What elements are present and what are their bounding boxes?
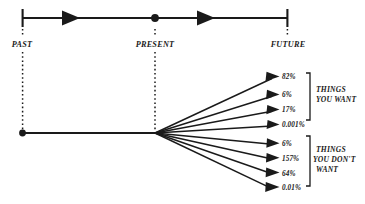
branch-want-2-arrowhead-icon <box>266 90 280 100</box>
branch-dont-want-3-percent: 64% <box>282 170 295 178</box>
diagram-root: PAST PRESENT FUTURE 82% 6% 17% 0.001% <box>0 0 365 204</box>
arrow-past-to-present-icon <box>62 11 80 26</box>
branch-want-4-percent: 0.001% <box>282 121 305 129</box>
branch-group-things-you-dont-want: 6% 157% 64% 0.01% THINGS YOU DON'T WANT <box>155 133 356 192</box>
branch-want-1-arrowhead-icon <box>266 72 280 81</box>
branch-dont-want-2-line <box>155 133 272 159</box>
branch-want-2-percent: 6% <box>282 91 292 99</box>
branch-dont-want-4-arrowhead-icon <box>265 182 279 192</box>
branch-want-1-percent: 82% <box>282 73 295 81</box>
group-label-things-you-want-line-1: THINGS <box>316 85 346 94</box>
timeline-label-present: PRESENT <box>136 40 175 49</box>
bracket-things-you-dont-want <box>306 136 310 186</box>
branch-dont-want-1-arrowhead-icon <box>266 138 279 148</box>
branch-dont-want-3-arrowhead-icon <box>266 168 280 178</box>
bracket-things-you-want <box>306 73 310 120</box>
branch-want-1-line <box>155 79 272 134</box>
past-present-future-diagram: PAST PRESENT FUTURE 82% 6% 17% 0.001% <box>0 0 365 204</box>
branch-want-3-arrowhead-icon <box>266 105 279 114</box>
group-label-things-you-dont-want-line-2: YOU DON'T <box>313 155 356 164</box>
arrow-present-to-future-icon <box>197 11 215 26</box>
trunk-origin-dot <box>19 130 26 137</box>
timeline-axis-group <box>22 9 288 27</box>
branch-group-things-you-want: 82% 6% 17% 0.001% THINGS YOU WANT <box>155 72 357 133</box>
branch-dont-want-4-percent: 0.01% <box>282 184 301 192</box>
group-label-things-you-dont-want-line-1: THINGS <box>316 145 346 154</box>
branch-dont-want-2-percent: 157% <box>282 155 299 163</box>
branch-dont-want-2-arrowhead-icon <box>266 153 280 163</box>
branch-want-4-arrowhead-icon <box>267 120 280 129</box>
timeline-label-past: PAST <box>12 40 33 49</box>
branch-dont-want-1-percent: 6% <box>282 140 292 148</box>
group-label-things-you-want-line-2: YOU WANT <box>316 95 357 104</box>
branch-want-3-percent: 17% <box>282 106 295 114</box>
tick-dashed-stubs <box>23 29 288 37</box>
group-label-things-you-dont-want-line-3: WANT <box>316 165 338 174</box>
timeline-label-future: FUTURE <box>270 40 306 49</box>
branch-dont-want-4-line <box>155 133 272 189</box>
present-marker-dot <box>151 14 159 22</box>
trunk-group <box>19 130 156 137</box>
drop-lines-group <box>23 52 155 130</box>
